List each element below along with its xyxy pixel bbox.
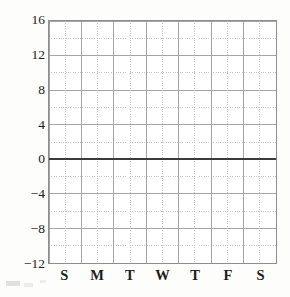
data-series-layer bbox=[49, 21, 276, 263]
y-axis-tick-label: 12 bbox=[32, 48, 46, 62]
grid-lines bbox=[49, 21, 276, 263]
x-axis-tick-labels: SMTWTFS bbox=[48, 268, 277, 297]
y-axis-tick-label: −4 bbox=[31, 187, 45, 201]
y-axis-tick-label: −8 bbox=[31, 222, 45, 236]
x-axis-tick-label: F bbox=[223, 268, 232, 283]
y-axis-tick-label: 0 bbox=[38, 152, 45, 166]
y-axis-tick-label: 4 bbox=[38, 118, 45, 132]
y-axis-tick-label: 16 bbox=[32, 13, 46, 27]
x-axis-tick-label: S bbox=[60, 268, 68, 283]
y-axis-tick-labels: 1612840−4−8−12 bbox=[0, 0, 48, 297]
x-axis-tick-label: W bbox=[155, 268, 170, 283]
x-axis-tick-label: M bbox=[90, 268, 104, 283]
y-axis-tick-label: 8 bbox=[38, 83, 45, 97]
scan-artifact bbox=[6, 281, 20, 286]
scan-artifact bbox=[40, 280, 46, 283]
x-axis-tick-label: T bbox=[125, 268, 135, 283]
chart-root: 1612840−4−8−12 SMTWTFS bbox=[0, 0, 290, 297]
x-axis-tick-label: S bbox=[257, 268, 265, 283]
scan-artifact bbox=[24, 283, 33, 287]
x-axis-tick-label: T bbox=[190, 268, 200, 283]
plot-area bbox=[48, 20, 277, 264]
y-axis-tick-label: −12 bbox=[24, 257, 45, 271]
